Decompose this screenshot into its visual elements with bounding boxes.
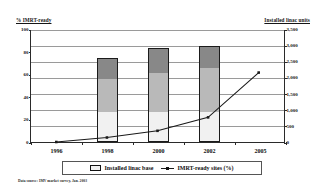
y-axis-left-title: % IMRT-ready (16, 17, 51, 23)
legend-item-installed-linac-base: Installed linac base (90, 165, 153, 171)
y-axis-right-tick-label: 500 (287, 124, 295, 129)
y-axis-right-tick-mark (284, 46, 287, 47)
x-axis-tick-label: 2002 (204, 148, 216, 154)
line-marker (106, 136, 109, 139)
legend-label-imrt-ready-sites: IMRT-ready sites (%) (177, 165, 233, 171)
y-axis-right-tick-label: 1,500 (287, 92, 298, 97)
x-axis-tick-label: 1998 (102, 148, 114, 154)
legend-line-marker-icon (161, 165, 174, 171)
x-axis-tick-label: 2005 (255, 148, 267, 154)
y-axis-right-tick-label: 3,500 (287, 27, 298, 32)
y-axis-right-tick-label: 2,000 (287, 75, 298, 80)
line-marker (156, 129, 159, 132)
x-axis-tick-mark (82, 142, 83, 145)
legend-item-imrt-ready-sites: IMRT-ready sites (%) (161, 165, 233, 171)
y-axis-right-tick-mark (284, 110, 287, 111)
line-markers (55, 71, 260, 143)
x-axis-tick-mark (133, 142, 134, 145)
x-axis-tick-mark (286, 142, 287, 145)
y-axis-right-tick-mark (284, 78, 287, 79)
chart-footnote: Data source: IMV market survey, Jan. 200… (18, 179, 87, 183)
y-axis-left-tick-label: 100 (21, 27, 29, 32)
y-axis-right-tick-mark (284, 30, 287, 31)
y-axis-right-tick-label: 3,000 (287, 43, 298, 48)
x-axis-tick-mark (31, 142, 32, 145)
x-axis-tick-mark (184, 142, 185, 145)
y-axis-right-tick-mark (284, 94, 287, 95)
y-axis-right-tick-mark (284, 62, 287, 63)
legend-box-swatch-icon (90, 165, 101, 171)
chart-figure: % IMRT-ready Installed linac units 02040… (0, 0, 320, 191)
plot-area: 020406080100 05001,0001,5002,0002,5003,0… (30, 30, 285, 143)
y-axis-right-title: Installed linac units (264, 17, 310, 23)
x-axis-tick-label: 2000 (153, 148, 165, 154)
line-series-imrt-ready-sites (31, 30, 284, 142)
x-axis-tick-label: 1996 (51, 148, 63, 154)
line-marker (207, 116, 210, 119)
legend-label-installed-linac-base: Installed linac base (104, 165, 153, 171)
y-axis-right-tick-mark (284, 126, 287, 127)
chart-legend: Installed linac base IMRT-ready sites (%… (62, 161, 262, 175)
y-axis-right-tick-label: 1,000 (287, 108, 298, 113)
line-marker (55, 140, 58, 143)
x-axis-tick-mark (235, 142, 236, 145)
y-axis-right-tick-label: 2,500 (287, 59, 298, 64)
line-marker (257, 71, 260, 74)
